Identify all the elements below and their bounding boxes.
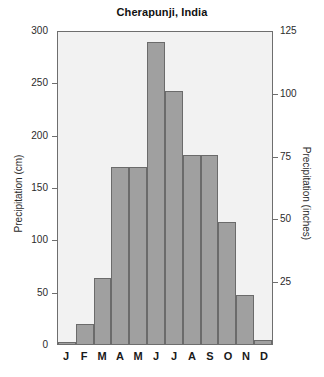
x-tick-label-july: J (165, 350, 183, 362)
bar-november (236, 295, 254, 344)
y-tick-right-75 (273, 157, 278, 158)
y-tick-left-200 (52, 136, 57, 137)
x-tick-label-june: J (147, 350, 165, 362)
y-tick-right-100 (273, 94, 278, 95)
x-tick-label-september: S (201, 350, 219, 362)
y-axis-left-title: Precipitation (cm) (13, 114, 24, 274)
bar-october (218, 222, 236, 344)
x-tick-label-december: D (255, 350, 273, 362)
y-tick-label-right-50: 50 (280, 214, 291, 224)
y-tick-label-left-150: 150 (31, 183, 48, 193)
y-tick-label-right-100: 100 (280, 89, 297, 99)
bar-december (254, 340, 272, 344)
x-tick-label-october: O (219, 350, 237, 362)
x-tick-label-august: A (183, 350, 201, 362)
bar-february (76, 324, 94, 344)
y-tick-right-50 (273, 219, 278, 220)
y-tick-left-50 (52, 293, 57, 294)
bar-january (58, 342, 76, 344)
y-tick-left-100 (52, 240, 57, 241)
chart-title: Cherapunji, India (0, 6, 324, 18)
y-tick-label-right-125: 125 (280, 26, 297, 36)
bar-march (94, 278, 112, 344)
x-tick-label-november: N (237, 350, 255, 362)
y-tick-label-left-0: 0 (42, 340, 48, 350)
bar-september (201, 155, 219, 344)
bar-june (147, 42, 165, 344)
bars-container (58, 32, 272, 344)
y-tick-label-right-25: 25 (280, 277, 291, 287)
bar-april (111, 167, 129, 344)
precipitation-chart: Cherapunji, India 050100150200250300 255… (0, 0, 324, 377)
bar-july (165, 91, 183, 344)
y-tick-label-left-50: 50 (37, 288, 48, 298)
x-tick-label-march: M (93, 350, 111, 362)
plot-area (57, 31, 273, 345)
y-tick-label-left-100: 100 (31, 235, 48, 245)
y-tick-label-left-250: 250 (31, 78, 48, 88)
x-axis-month-labels: JFMAMJJASOND (57, 350, 273, 362)
x-tick-label-april: A (111, 350, 129, 362)
y-tick-right-25 (273, 282, 278, 283)
y-axis-right-title: Precipitation (inches) (301, 114, 312, 274)
y-tick-label-left-300: 300 (31, 26, 48, 36)
y-tick-left-150 (52, 188, 57, 189)
y-tick-label-left-200: 200 (31, 131, 48, 141)
y-tick-left-250 (52, 83, 57, 84)
y-tick-label-right-75: 75 (280, 152, 291, 162)
x-tick-label-february: F (75, 350, 93, 362)
bar-may (129, 167, 147, 344)
bar-august (183, 155, 201, 344)
x-tick-label-january: J (57, 350, 75, 362)
x-tick-label-may: M (129, 350, 147, 362)
